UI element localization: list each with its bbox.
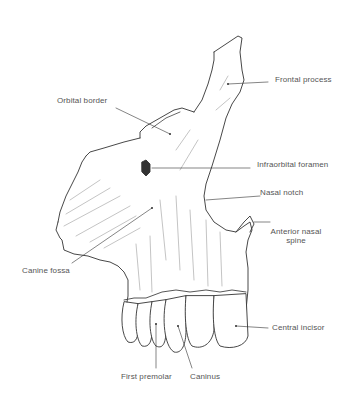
label-anterior-nasal-spine-line2: spine xyxy=(268,236,324,245)
label-frontal-process: Frontal process xyxy=(275,75,332,84)
label-orbital-border: Orbital border xyxy=(57,96,107,105)
label-anterior-nasal-spine: Anterior nasal spine xyxy=(268,227,324,245)
maxilla-drawing xyxy=(0,0,352,402)
maxilla-diagram: Frontal process Orbital border Infraorbi… xyxy=(0,0,352,402)
label-caninus: Caninus xyxy=(190,372,220,381)
label-first-premolar: First premolar xyxy=(121,372,172,381)
label-central-incisor: Central incisor xyxy=(272,323,325,332)
label-anterior-nasal-spine-line1: Anterior nasal xyxy=(268,227,324,236)
label-infraorbital-foramen: Infraorbital foramen xyxy=(257,160,328,169)
label-nasal-notch: Nasal notch xyxy=(260,188,303,197)
label-canine-fossa: Canine fossa xyxy=(22,266,70,275)
